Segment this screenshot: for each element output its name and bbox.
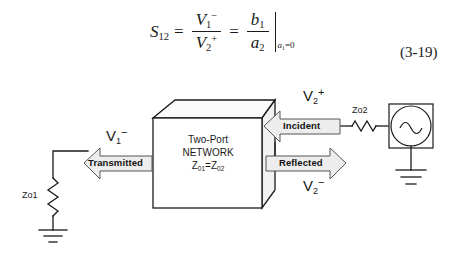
- fraction-v1-over-v2: V1− V2+: [192, 10, 222, 53]
- source-ground: [396, 146, 426, 184]
- source-circle: [391, 106, 431, 146]
- equation-lhs: S12: [150, 22, 169, 42]
- figure-page: S12 = V1− V2+ = b1 a2 a1=0 (3-19): [0, 0, 476, 269]
- equation-expression: S12 = V1− V2+ = b1 a2 a1=0: [150, 10, 294, 53]
- equation-condition: a1=0: [278, 40, 295, 53]
- ac-source: [389, 104, 433, 148]
- sine-wave-icon: [400, 123, 422, 134]
- equation-number: (3-19): [400, 44, 438, 61]
- equation-lhs-subscript: 12: [159, 30, 170, 41]
- transmitted-arrow-label: Transmitted: [88, 157, 143, 168]
- network-label-line1: Two-Port: [160, 133, 256, 146]
- network-box-label: Two-Port NETWORK Z01=Z02: [160, 133, 256, 175]
- box-side-face: [262, 100, 275, 208]
- equals-sign-1: =: [174, 22, 184, 42]
- fraction-denominator-a2: a2: [247, 32, 269, 53]
- box-top-face: [153, 100, 275, 118]
- zo1-label: Zo1: [22, 190, 38, 200]
- fraction-b1-over-a2: b1 a2: [247, 10, 269, 53]
- evaluation-bar: [275, 12, 276, 52]
- reflected-arrow-label: Reflected: [279, 157, 323, 168]
- incident-arrow-label: Incident: [283, 120, 320, 131]
- zo2-branch: [341, 121, 388, 131]
- network-impedance-label: Z01=Z02: [160, 159, 256, 175]
- network-label-line2: NETWORK: [160, 146, 256, 159]
- fraction-denominator-v2: V2+: [192, 32, 222, 53]
- v1-minus-label: V1−: [106, 126, 127, 146]
- equation-block: S12 = V1− V2+ = b1 a2 a1=0 (3-19): [0, 4, 476, 66]
- source-box: [389, 104, 433, 148]
- circuit-diagram: Two-Port NETWORK Z01=Z02 Transmitted Inc…: [0, 78, 476, 269]
- v2-plus-label: V2+: [303, 86, 324, 106]
- zo2-label: Zo2: [352, 105, 368, 115]
- zo1-branch: [39, 151, 88, 242]
- v2-minus-label: V2−: [303, 176, 324, 196]
- equals-sign-2: =: [229, 22, 239, 42]
- fraction-numerator-v1: V1−: [192, 10, 222, 32]
- fraction-numerator-b1: b1: [247, 10, 269, 32]
